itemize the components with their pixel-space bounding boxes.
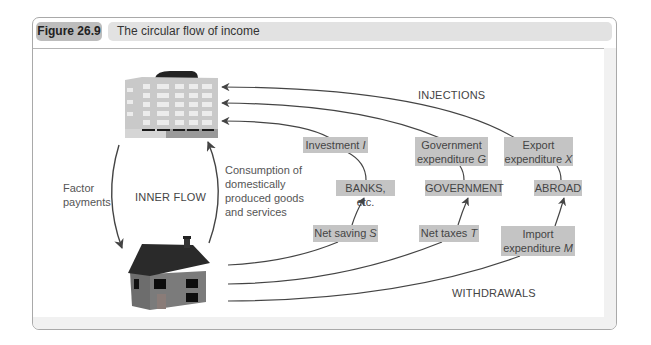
net-taxes-symbol: T [470, 227, 477, 239]
import-expenditure-box: Import expenditure M [501, 226, 575, 256]
government-expenditure-symbol: G [478, 153, 487, 165]
government-expenditure-line1: Government [415, 138, 488, 152]
banks-investment-link [347, 152, 366, 180]
inner-flow-label: INNER FLOW [135, 190, 206, 204]
flow-diagram [0, 0, 651, 345]
house-icon [128, 236, 210, 310]
investment-text: Investment [306, 139, 360, 151]
consumption-line2: domestically [225, 177, 304, 191]
net-taxes-box: Net taxes T [419, 225, 479, 242]
consumption-line4: and services [225, 205, 304, 219]
imports-to-abroad-arrow [555, 198, 564, 226]
export-expenditure-symbol: X [565, 153, 572, 165]
import-expenditure-symbol: M [564, 242, 573, 254]
factor-payments-line2: payments [63, 195, 111, 209]
government-expenditure-line2: expenditure [417, 153, 475, 165]
government-expenditure-link [460, 166, 464, 180]
consumption-line3: produced goods [225, 191, 304, 205]
net-saving-text: Net saving [314, 227, 366, 239]
taxes-withdrawal-line [228, 242, 442, 284]
investment-symbol: I [362, 139, 365, 151]
government-expenditure-box: Government expenditure G [415, 137, 488, 166]
banks-box: BANKS, etc. [336, 180, 395, 196]
injections-label: INJECTIONS [418, 88, 485, 102]
net-taxes-text: Net taxes [421, 227, 467, 239]
investment-injection-arrow [222, 121, 330, 138]
government-injection-arrow [222, 103, 440, 138]
net-saving-symbol: S [369, 227, 376, 239]
factor-payments-line1: Factor [63, 181, 111, 195]
export-expenditure-box: Export expenditure X [504, 137, 573, 166]
government-box: GOVERNMENT [425, 180, 502, 196]
abroad-box: ABROAD [534, 180, 582, 196]
factor-payments-arrow [112, 145, 122, 248]
factor-payments-label: Factor payments [63, 181, 111, 209]
import-expenditure-line1: Import [501, 227, 575, 241]
withdrawals-label: WITHDRAWALS [452, 286, 536, 300]
consumption-label: Consumption of domestically produced goo… [225, 163, 304, 219]
export-expenditure-line1: Export [504, 138, 573, 152]
taxes-to-government-arrow [458, 198, 468, 225]
abroad-export-link [557, 166, 561, 180]
consumption-arrow [208, 142, 218, 243]
export-expenditure-line2: expenditure [505, 153, 563, 165]
net-saving-box: Net saving S [313, 225, 378, 242]
office-building-icon [125, 71, 218, 138]
investment-box: Investment I [303, 137, 368, 153]
consumption-line1: Consumption of [225, 163, 304, 177]
import-expenditure-line2: expenditure [503, 242, 561, 254]
saving-withdrawal-line [228, 242, 338, 265]
